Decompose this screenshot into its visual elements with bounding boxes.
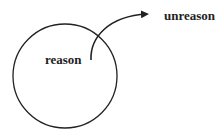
reason-label: reason [45,52,82,67]
reason-circle [13,24,117,128]
reason-unreason-diagram: reason unreason [0,0,216,138]
unreason-label: unreason [164,8,216,23]
